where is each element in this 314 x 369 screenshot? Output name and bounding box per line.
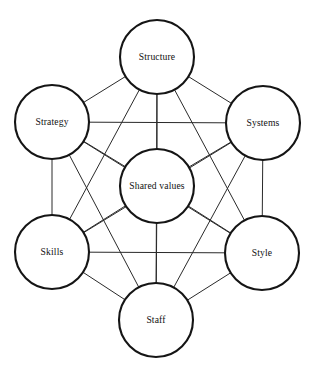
connection-line-style-to-staff <box>187 273 230 300</box>
connection-line-systems-to-shared_values <box>189 142 231 167</box>
node-label-skills: Skills <box>41 246 64 257</box>
node-systems[interactable]: Systems <box>226 86 300 160</box>
node-label-style: Style <box>252 247 272 258</box>
node-label-staff: Staff <box>146 314 166 325</box>
node-label-strategy: Strategy <box>35 116 68 127</box>
node-structure[interactable]: Structure <box>120 20 194 94</box>
node-staff[interactable]: Staff <box>119 283 193 357</box>
node-label-shared_values: Shared values <box>129 180 185 191</box>
connection-line-systems-to-strategy <box>89 122 226 123</box>
node-label-systems: Systems <box>246 117 279 128</box>
node-skills[interactable]: Skills <box>15 215 89 289</box>
connection-line-skills-to-shared_values <box>83 206 125 233</box>
diagram-canvas: StructureSystemsStyleStaffSkillsStrategy… <box>0 0 314 369</box>
node-strategy[interactable]: Strategy <box>15 85 89 159</box>
nodes-group: StructureSystemsStyleStaffSkillsStrategy… <box>15 20 300 357</box>
connection-line-strategy-to-shared_values <box>84 141 126 166</box>
seven-s-framework-diagram: StructureSystemsStyleStaffSkillsStrategy… <box>0 0 314 369</box>
connection-line-staff-to-skills <box>83 272 125 300</box>
node-label-structure: Structure <box>139 51 176 62</box>
node-style[interactable]: Style <box>225 216 299 290</box>
connection-line-style-to-shared_values <box>188 206 231 233</box>
node-shared_values[interactable]: Shared values <box>120 149 194 223</box>
connection-line-structure-to-systems <box>188 77 231 104</box>
connection-line-structure-to-strategy <box>83 76 125 102</box>
